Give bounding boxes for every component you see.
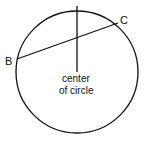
point-b-label: B — [5, 55, 12, 67]
point-c-label: C — [120, 14, 128, 26]
center-label-line1: center — [62, 73, 90, 84]
circle-diagram: B C center of circle — [0, 0, 144, 144]
center-label-line2: of circle — [59, 85, 93, 96]
chord-bc — [17, 23, 118, 59]
